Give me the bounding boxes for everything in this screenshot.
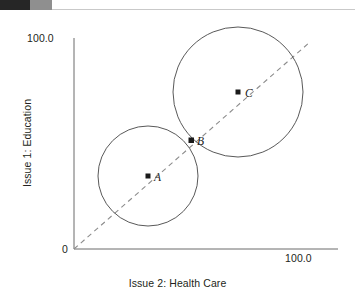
point-marker-b xyxy=(189,138,195,144)
diagram-page: 100.0 0 100.0 Issue 2: Health Care Issue… xyxy=(0,0,355,298)
x-axis-tick-max: 100.0 xyxy=(285,252,312,264)
point-marker-c xyxy=(236,90,241,95)
point-label-a: A xyxy=(154,171,161,183)
y-axis-tick-min: 0 xyxy=(62,243,68,255)
y-axis-title: Issue 1: Education xyxy=(21,58,33,228)
point-label-b: B xyxy=(197,135,204,147)
y-axis-tick-max: 100.0 xyxy=(27,32,54,44)
x-axis-title: Issue 2: Health Care xyxy=(0,277,355,289)
point-label-c: C xyxy=(245,87,253,99)
point-marker-a xyxy=(146,174,151,179)
